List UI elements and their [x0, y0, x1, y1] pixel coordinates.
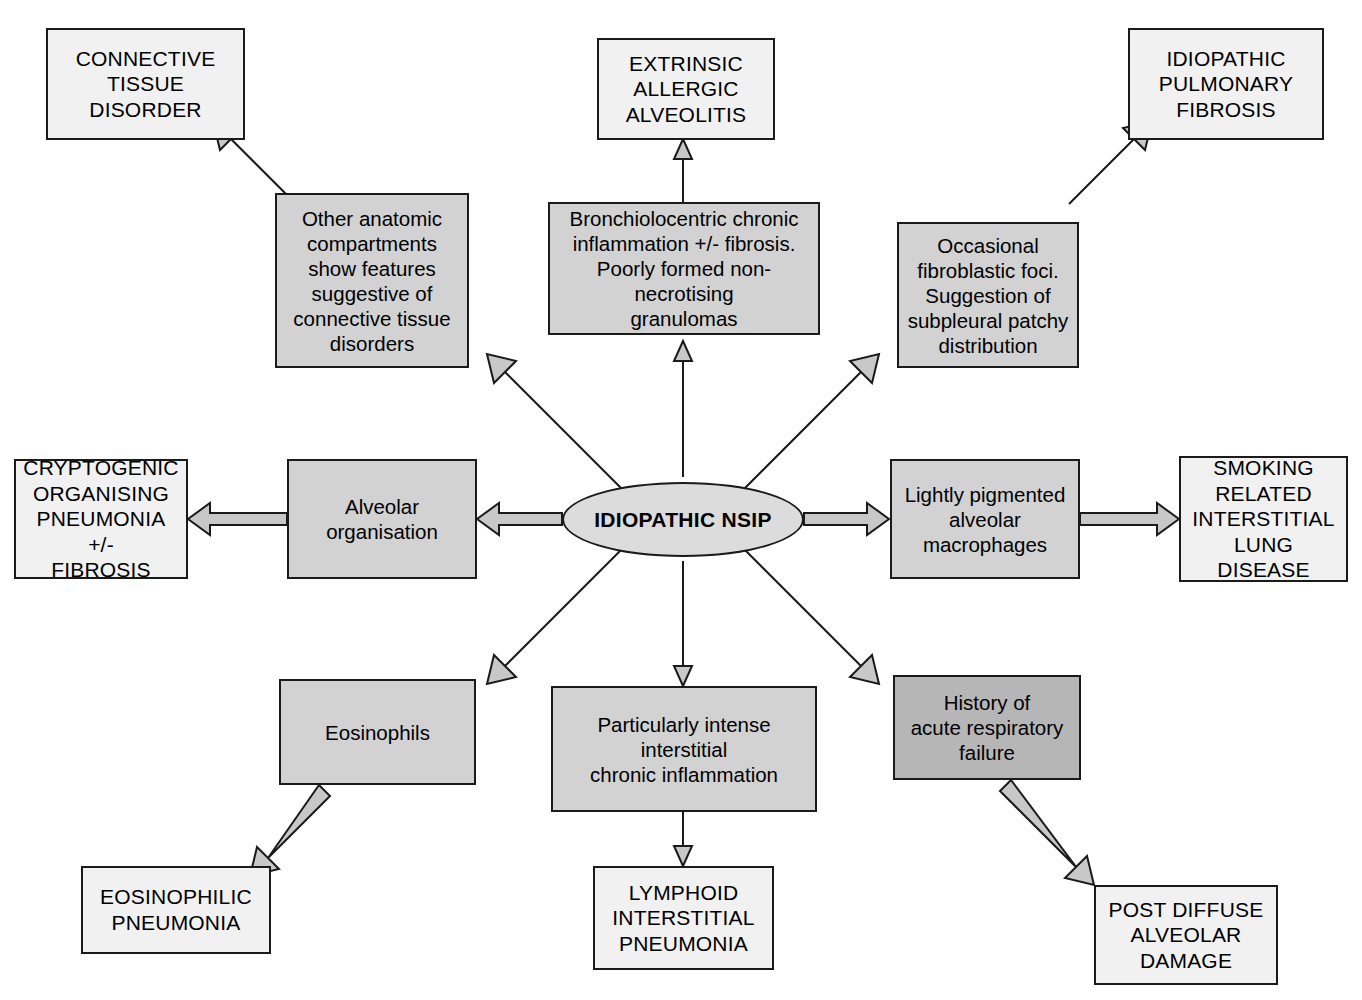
feature-box-history-of-acute-respiratory-failure[interactable]: History of acute respiratory failure: [893, 675, 1081, 780]
hub-label: IDIOPATHIC NSIP: [594, 508, 772, 532]
diagram-canvas: CONNECTIVE TISSUE DISORDER EXTRINSIC ALL…: [0, 0, 1362, 1000]
diagnosis-box-cryptogenic-organising-pneumonia[interactable]: CRYPTOGENIC ORGANISING PNEUMONIA +/- FIB…: [14, 459, 188, 579]
feature-box-occasional-fibroblastic-foci[interactable]: Occasional fibroblastic foci. Suggestion…: [897, 222, 1079, 368]
feature-box-other-anatomic-compartments[interactable]: Other anatomic compartments show feature…: [275, 193, 469, 368]
arrow-lip-feature-to-diagnosis: [674, 812, 692, 866]
arrow-hub-to-srild-feature: [804, 503, 889, 535]
diagnosis-box-idiopathic-pulmonary-fibrosis[interactable]: IDIOPATHIC PULMONARY FIBROSIS: [1128, 28, 1324, 140]
feature-label: Alveolar organisation: [289, 494, 475, 544]
diagnosis-box-smoking-related-interstitial-lung-disease[interactable]: SMOKING RELATED INTERSTITIAL LUNG DISEAS…: [1179, 456, 1348, 582]
diagnosis-box-eosinophilic-pneumonia[interactable]: EOSINOPHILIC PNEUMONIA: [81, 866, 271, 954]
arrow-cop-feature-to-diagnosis: [188, 503, 287, 535]
diagnosis-label: POST DIFFUSE ALVEOLAR DAMAGE: [1096, 897, 1276, 974]
arrow-hub-to-eosinophil-feature: [487, 549, 622, 684]
arrow-eaa-feature-to-diagnosis: [674, 139, 692, 202]
arrow-hub-to-cop-feature: [477, 503, 562, 535]
feature-label: Eosinophils: [281, 720, 474, 745]
feature-label: Lightly pigmented alveolar macrophages: [892, 482, 1078, 557]
arrow-hub-to-ipf-feature: [744, 354, 879, 489]
arrow-eosinophil-feature-to-diagnosis: [250, 785, 330, 876]
arrow-hub-to-connective-feature: [487, 354, 622, 489]
arrow-srild-feature-to-diagnosis: [1080, 503, 1179, 535]
diagnosis-box-post-diffuse-alveolar-damage[interactable]: POST DIFFUSE ALVEOLAR DAMAGE: [1094, 885, 1278, 985]
diagnosis-box-extrinsic-allergic-alveolitis[interactable]: EXTRINSIC ALLERGIC ALVEOLITIS: [597, 38, 775, 140]
hub-idiopathic-nsip[interactable]: IDIOPATHIC NSIP: [562, 482, 804, 557]
feature-box-eosinophils[interactable]: Eosinophils: [279, 679, 476, 785]
feature-label: Occasional fibroblastic foci. Suggestion…: [899, 233, 1077, 358]
diagnosis-label: LYMPHOID INTERSTITIAL PNEUMONIA: [595, 880, 772, 957]
feature-label: Other anatomic compartments show feature…: [277, 206, 467, 356]
diagnosis-box-lymphoid-interstitial-pneumonia[interactable]: LYMPHOID INTERSTITIAL PNEUMONIA: [593, 866, 774, 970]
diagnosis-label: CONNECTIVE TISSUE DISORDER: [48, 46, 243, 123]
feature-box-particularly-intense-interstitial-inflammation[interactable]: Particularly intense interstitial chroni…: [551, 686, 817, 812]
diagnosis-label: EOSINOPHILIC PNEUMONIA: [83, 884, 269, 935]
arrow-hub-to-eaa-feature: [674, 341, 692, 477]
feature-label: Bronchiolocentric chronic inflammation +…: [550, 206, 818, 331]
diagnosis-label: EXTRINSIC ALLERGIC ALVEOLITIS: [599, 51, 773, 128]
diagnosis-label: CRYPTOGENIC ORGANISING PNEUMONIA +/- FIB…: [16, 455, 186, 583]
diagnosis-box-connective-tissue-disorder[interactable]: CONNECTIVE TISSUE DISORDER: [46, 28, 245, 140]
feature-box-lightly-pigmented-macrophages[interactable]: Lightly pigmented alveolar macrophages: [890, 459, 1080, 579]
arrow-hub-to-dad-feature: [744, 549, 879, 684]
feature-label: History of acute respiratory failure: [895, 690, 1079, 765]
feature-box-bronchiolocentric-inflammation[interactable]: Bronchiolocentric chronic inflammation +…: [548, 202, 820, 335]
arrow-hub-to-lip-feature: [674, 561, 692, 686]
diagnosis-label: IDIOPATHIC PULMONARY FIBROSIS: [1130, 46, 1322, 123]
feature-box-alveolar-organisation[interactable]: Alveolar organisation: [287, 459, 477, 579]
feature-label: Particularly intense interstitial chroni…: [553, 712, 815, 787]
arrow-dad-feature-to-diagnosis: [1000, 780, 1094, 885]
diagnosis-label: SMOKING RELATED INTERSTITIAL LUNG DISEAS…: [1181, 455, 1346, 583]
